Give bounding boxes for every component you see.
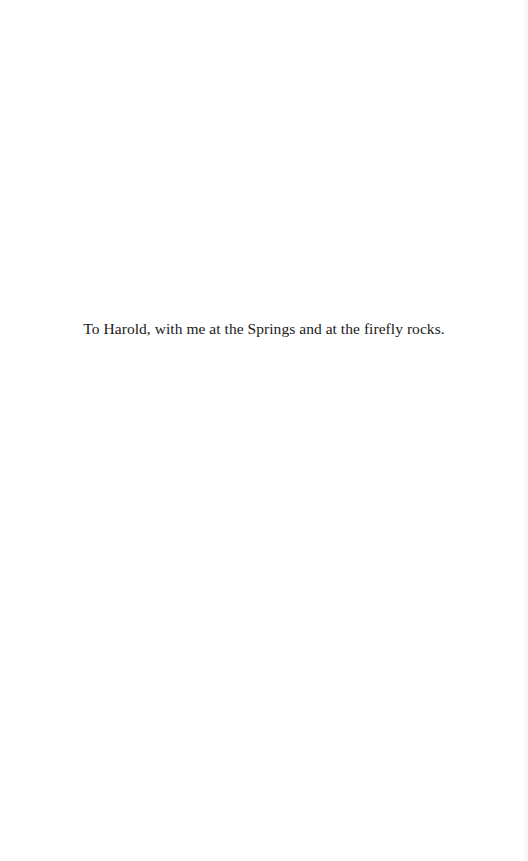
dedication-text: To Harold, with me at the Springs and at…	[0, 320, 528, 338]
page-edge-shadow	[522, 0, 528, 861]
book-page: To Harold, with me at the Springs and at…	[0, 0, 528, 861]
